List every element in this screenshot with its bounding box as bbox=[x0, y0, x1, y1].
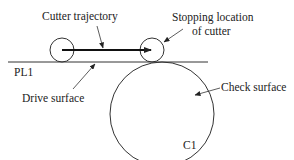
drive-surface-leader bbox=[73, 64, 95, 89]
label-stopping-location: Stopping location bbox=[172, 11, 254, 24]
label-drive-surface: Drive surface bbox=[22, 92, 84, 104]
cutter-trajectory-leader bbox=[97, 26, 103, 48]
stopping-location-leader bbox=[164, 29, 183, 42]
check-surface-circle-c1 bbox=[110, 62, 214, 160]
label-pl1: PL1 bbox=[14, 66, 33, 78]
label-check-surface: Check surface bbox=[221, 81, 286, 93]
label-cutter-trajectory: Cutter trajectory bbox=[42, 10, 118, 23]
label-c1: C1 bbox=[183, 139, 197, 151]
cutter-stop-diagram: Cutter trajectory Stopping location of c… bbox=[0, 0, 294, 160]
label-stopping-location-2: of cutter bbox=[192, 25, 231, 37]
